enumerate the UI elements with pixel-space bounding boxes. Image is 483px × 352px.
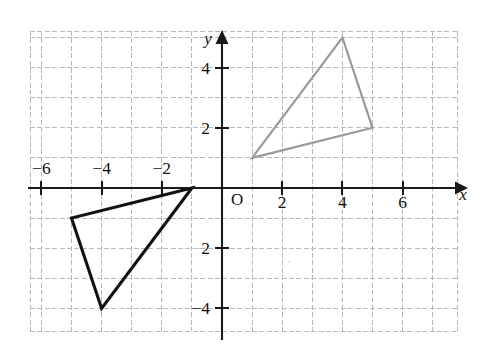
x-axis-tick-label: 2 bbox=[278, 192, 287, 212]
y-axis-tick-label: 4 bbox=[201, 58, 210, 78]
coordinate-plane-svg: −6−4−224642−2−4 O x y bbox=[0, 0, 483, 352]
x-axis-tick-label: 6 bbox=[398, 192, 407, 212]
y-axis-label: y bbox=[202, 29, 212, 48]
coordinate-plane-figure: −6−4−224642−2−4 O x y bbox=[0, 0, 483, 352]
x-axis-label: x bbox=[458, 185, 467, 204]
x-axis-tick-label: 4 bbox=[338, 192, 347, 212]
origin-label: O bbox=[231, 190, 243, 209]
x-axis-tick-label: −6 bbox=[32, 158, 51, 178]
y-axis-tick-label: −4 bbox=[191, 298, 210, 318]
x-axis-tick-label: −4 bbox=[92, 158, 111, 178]
y-axis-tick-label: 2 bbox=[201, 118, 210, 138]
figure-background bbox=[0, 0, 483, 352]
y-axis-tick-label: −2 bbox=[191, 238, 210, 258]
x-axis-tick-label: −2 bbox=[152, 158, 171, 178]
